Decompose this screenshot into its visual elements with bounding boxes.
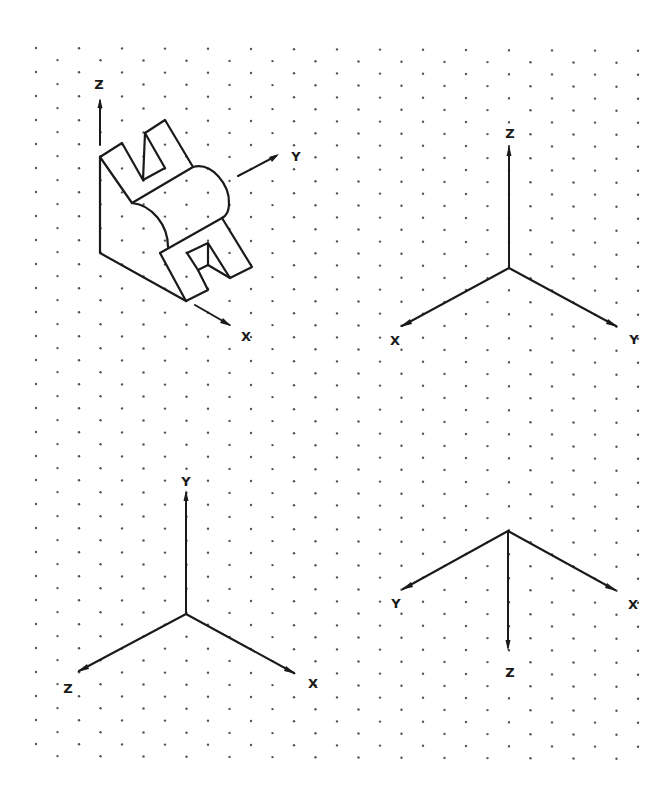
grid-dot [293,120,295,122]
grid-dot [314,444,316,446]
grid-dot [357,300,359,302]
grid-dot [422,337,424,339]
grid-dot [486,253,488,255]
grid-dot [465,73,467,75]
grid-dot [99,275,101,277]
grid-dot [551,169,553,171]
grid-dot [336,192,338,194]
grid-dot [594,265,596,267]
grid-dot [572,685,574,687]
grid-dot [400,565,402,567]
grid-dot [529,85,531,87]
grid-dot [443,421,445,423]
grid-dot [293,456,295,458]
grid-dot [508,97,510,99]
grid-dot [486,205,488,207]
grid-dot [465,313,467,315]
grid-dot [164,671,166,673]
grid-dot [121,47,123,49]
grid-dot [422,673,424,675]
grid-dot [271,468,273,470]
top-right-axes: Z X Y [390,126,639,348]
grid-dot [637,194,639,196]
grid-dot [293,216,295,218]
grid-dot [99,587,101,589]
grid-dot [486,373,488,375]
grid-dot [207,216,209,218]
grid-dot [551,697,553,699]
grid-dot [422,625,424,627]
grid-dot [379,240,381,242]
grid-dot [529,517,531,519]
grid-dot [637,578,639,580]
grid-dot [379,312,381,314]
grid-dot [400,493,402,495]
grid-dot [508,361,510,363]
grid-dot [142,731,144,733]
grid-dot [293,384,295,386]
grid-dot [142,539,144,541]
grid-dot [250,504,252,506]
grid-dot [615,494,617,496]
grid-dot [99,731,101,733]
grid-dot [293,360,295,362]
grid-dot [142,419,144,421]
grid-dot [271,708,273,710]
grid-dot [443,205,445,207]
grid-dot [56,155,58,157]
grid-dot [314,204,316,206]
grid-dot [400,685,402,687]
grid-dot [422,97,424,99]
grid-dot [400,421,402,423]
grid-dot [314,372,316,374]
isometric-dot-grid [35,47,639,760]
tr-left-label: X [390,333,400,348]
grid-dot [529,469,531,471]
grid-dot [207,720,209,722]
grid-dot [99,755,101,757]
grid-dot [271,612,273,614]
grid-dot [78,263,80,265]
grid-dot [594,721,596,723]
grid-dot [78,383,80,385]
grid-dot [250,480,252,482]
grid-dot [422,409,424,411]
grid-dot [400,157,402,159]
grid-dot [594,529,596,531]
grid-dot [56,203,58,205]
grid-dot [465,697,467,699]
grid-dot [142,683,144,685]
grid-dot [250,552,252,554]
grid-dot [336,408,338,410]
grid-dot [35,527,37,529]
grid-dot [164,503,166,505]
br-right-axis [508,531,615,590]
grid-dot [615,230,617,232]
grid-dot [379,720,381,722]
br-left-label: Y [390,596,401,611]
grid-dot [529,589,531,591]
grid-dot [594,553,596,555]
grid-dot [164,455,166,457]
grid-dot [637,242,639,244]
lower-slot-edge [187,243,230,278]
grid-dot [314,492,316,494]
grid-dot [551,673,553,675]
grid-dot [637,362,639,364]
grid-dot [56,611,58,613]
grid-dot [336,480,338,482]
grid-dot [551,505,553,507]
grid-dot [551,73,553,75]
grid-dot [465,577,467,579]
grid-dot [207,360,209,362]
grid-dot [357,732,359,734]
grid-dot [185,372,187,374]
grid-dot [35,287,37,289]
grid-dot [35,431,37,433]
grid-dot [271,636,273,638]
grid-dot [164,479,166,481]
grid-dot [422,169,424,171]
grid-dot [293,744,295,746]
grid-dot [228,708,230,710]
grid-dot [99,443,101,445]
